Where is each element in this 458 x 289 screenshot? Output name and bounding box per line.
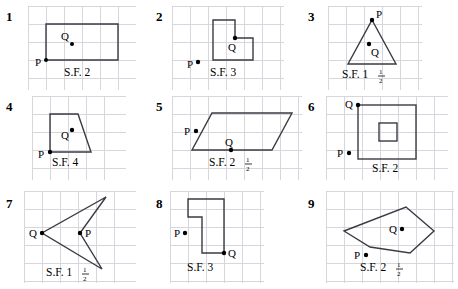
grid-8	[170, 191, 264, 283]
problem-panel-1: 1 P Q	[0, 0, 150, 95]
problem-panel-5: 5	[150, 92, 300, 187]
point-p-label-8: P	[174, 227, 180, 239]
svg-text:S.F. 2: S.F. 2	[360, 261, 387, 273]
problem-panel-7: 7 Q	[0, 185, 150, 289]
problem-panel-4: 4 P Q S.F	[0, 92, 150, 187]
point-p-dot-6	[347, 151, 351, 155]
problem-figure-8: P Q S.F. 3	[170, 191, 264, 283]
point-q-dot-4	[70, 128, 74, 132]
svg-text:S.F. 1: S.F. 1	[342, 68, 369, 80]
problem-number-4: 4	[6, 100, 13, 113]
scale-factor-2: S.F. 3	[210, 66, 236, 78]
sf-prefix-3: S.F.	[342, 68, 363, 80]
problem-panel-8: 8 P	[150, 185, 300, 289]
sf-denominator-3: 2	[379, 77, 383, 85]
point-p-label-4: P	[38, 148, 44, 160]
point-p-dot-5	[194, 129, 198, 133]
point-p-dot-4	[48, 150, 52, 154]
sf-denominator-7: 2	[83, 275, 87, 283]
sf-numerator-5: 1	[246, 156, 250, 164]
point-p-dot-8	[183, 231, 187, 235]
problem-panel-3: 3 P Q	[300, 0, 458, 95]
shape-parallelogram-5	[192, 113, 292, 150]
point-p-dot-2	[196, 60, 200, 64]
problem-figure-5: P Q S.F. 2 1 2	[172, 96, 302, 180]
problem-figure-6: Q P S.F. 2	[326, 96, 448, 180]
grid-9	[326, 191, 454, 283]
sf-whole-7: 1	[67, 266, 73, 278]
shape-l-2	[213, 20, 253, 60]
sf-denominator-9: 2	[397, 270, 401, 278]
point-q-dot-1	[70, 42, 74, 46]
svg-text:S.F. 1: S.F. 1	[46, 266, 73, 278]
point-q-label-9: Q	[389, 223, 397, 235]
problem-panel-9: 9	[300, 185, 458, 289]
problem-number-6: 6	[308, 100, 315, 113]
scale-factor-3: S.F. 1 1 2	[342, 68, 385, 85]
scale-factor-9: S.F. 2 1 2	[360, 261, 403, 278]
problem-figure-7: Q P S.F. 1 1 2	[24, 191, 136, 283]
point-p-label-7: P	[85, 227, 91, 239]
problem-panel-2: 2 P	[150, 0, 300, 95]
point-p-dot-9	[364, 253, 368, 257]
sf-whole-9: 2	[381, 261, 387, 273]
point-q-label-3: Q	[371, 46, 379, 58]
point-q-dot-5	[229, 148, 233, 152]
point-q-dot-8	[222, 251, 226, 255]
point-p-dot-7	[78, 231, 82, 235]
point-p-dot-1	[44, 58, 48, 62]
point-q-label-1: Q	[61, 30, 69, 42]
point-q-dot-2	[233, 36, 237, 40]
sf-numerator-7: 1	[83, 266, 87, 274]
point-q-label-2: Q	[228, 41, 236, 53]
point-p-label-1: P	[35, 56, 41, 68]
grid-5	[172, 96, 302, 180]
problem-number-7: 7	[6, 197, 13, 210]
grid-7	[24, 191, 136, 283]
point-q-label-6: Q	[345, 98, 353, 110]
point-p-dot-3	[370, 18, 374, 22]
point-p-label-2: P	[187, 58, 193, 70]
sf-numerator-3: 1	[379, 68, 383, 76]
scale-factor-4: S.F. 4	[52, 156, 78, 168]
scale-factor-5: S.F. 2 1 2	[209, 156, 252, 173]
grid-4	[32, 96, 126, 180]
point-q-label-5: Q	[225, 136, 233, 148]
sf-prefix-7: S.F.	[46, 266, 67, 278]
point-p-label-3: P	[376, 8, 382, 20]
point-q-dot-9	[400, 227, 404, 231]
scale-factor-6: S.F. 2	[372, 162, 398, 174]
svg-text:S.F. 2: S.F. 2	[209, 156, 236, 168]
problem-number-9: 9	[308, 197, 315, 210]
scale-factor-7: S.F. 1 1 2	[46, 266, 89, 283]
point-p-label-9: P	[354, 249, 360, 261]
sf-numerator-9: 1	[397, 261, 401, 269]
problem-figure-9: Q P S.F. 2 1 2	[326, 191, 454, 283]
point-p-label-5: P	[184, 125, 190, 137]
point-q-label-4: Q	[61, 129, 69, 141]
scale-factor-8: S.F. 3	[187, 261, 213, 273]
point-q-dot-6	[356, 103, 360, 107]
worksheet-sheet: 1 P Q	[0, 0, 458, 289]
problem-number-8: 8	[156, 197, 163, 210]
problem-panel-6: 6	[300, 92, 458, 187]
sf-prefix-5: S.F.	[209, 156, 230, 168]
sf-prefix-9: S.F.	[360, 261, 381, 273]
point-p-label-6: P	[337, 147, 343, 159]
point-q-label-7: Q	[29, 227, 37, 239]
problem-number-1: 1	[6, 10, 13, 23]
problem-figure-4: P Q S.F. 4	[32, 96, 126, 180]
problem-figure-3: P Q S.F. 1 1 2	[328, 6, 422, 90]
problem-number-2: 2	[156, 10, 163, 23]
point-q-dot-7	[40, 231, 44, 235]
point-q-label-8: Q	[228, 247, 236, 259]
sf-whole-3: 1	[363, 68, 369, 80]
scale-factor-1: S.F. 2	[64, 66, 90, 78]
problem-number-5: 5	[156, 100, 163, 113]
problem-number-3: 3	[308, 10, 315, 23]
problem-figure-2: P Q S.F. 3	[172, 6, 284, 90]
problem-figure-1: P Q S.F. 2	[28, 6, 136, 90]
sf-whole-5: 2	[230, 156, 236, 168]
sf-denominator-5: 2	[246, 165, 250, 173]
